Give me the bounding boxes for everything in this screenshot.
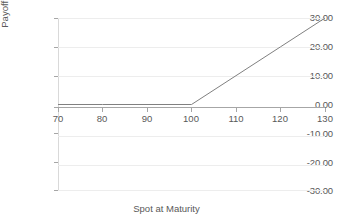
y-axis-title: Payoff (CCY2 per CCY1) xyxy=(0,0,10,40)
x-tick-mark-80 xyxy=(102,108,103,112)
x-tick-label-120: 120 xyxy=(265,113,295,124)
x-tick-label-100: 100 xyxy=(176,113,206,124)
x-tick-mark-90 xyxy=(147,108,148,112)
x-tick-mark-100 xyxy=(191,108,192,112)
y-axis-title-label: Payoff (CCY2 per CCY1) xyxy=(0,0,10,40)
series-call-payoff xyxy=(58,18,325,191)
x-tick-mark-110 xyxy=(236,108,237,112)
x-tick-mark-70 xyxy=(58,108,59,112)
x-tick-label-80: 80 xyxy=(87,113,117,124)
plot-area xyxy=(58,18,325,191)
payoff-polyline xyxy=(58,18,325,105)
x-tick-label-70: 70 xyxy=(43,113,73,124)
x-tick-label-90: 90 xyxy=(132,113,162,124)
x-tick-mark-130 xyxy=(325,108,326,112)
x-axis-title: Spot at Maturity xyxy=(0,203,333,214)
x-tick-label-130: 130 xyxy=(310,113,338,124)
x-tick-label-110: 110 xyxy=(221,113,251,124)
x-tick-mark-120 xyxy=(280,108,281,112)
